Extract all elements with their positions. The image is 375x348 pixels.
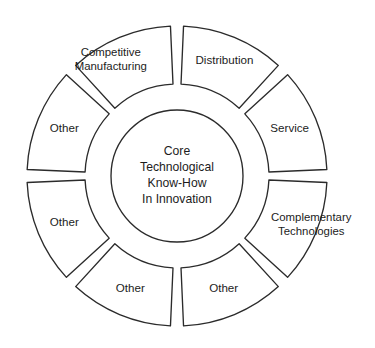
innovation-capability-wheel-diagram: CoreTechnologicalKnow-HowIn Innovation D…: [0, 0, 375, 348]
wheel-svg: CoreTechnologicalKnow-HowIn Innovation D…: [0, 0, 375, 348]
core-group: CoreTechnologicalKnow-HowIn Innovation: [111, 110, 243, 242]
segment-label-other-lower-right: Other: [209, 281, 238, 294]
segment-label-distribution: Distribution: [195, 54, 253, 67]
segment-label-service: Service: [270, 121, 309, 134]
segment-label-other-lower-left: Other: [116, 281, 145, 294]
segment-label-other-left-lower: Other: [50, 215, 79, 228]
segment-label-other-left-upper: Other: [50, 121, 79, 134]
